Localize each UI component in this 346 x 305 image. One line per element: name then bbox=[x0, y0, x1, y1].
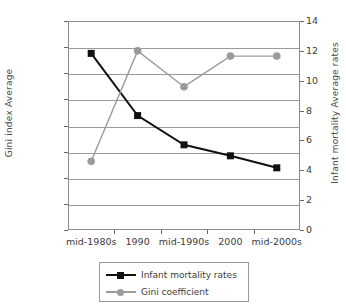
series-layer bbox=[0, 0, 346, 305]
legend-item-infant-mortality-rates: Infant mortality rates bbox=[106, 267, 237, 283]
data-point-square bbox=[134, 112, 141, 119]
data-point-circle bbox=[227, 52, 235, 60]
data-point-square bbox=[181, 141, 188, 148]
legend-item-gini-coefficient: Gini coefficient bbox=[106, 284, 208, 300]
legend-key-circle-icon bbox=[106, 286, 136, 298]
legend-label: Gini coefficient bbox=[141, 287, 208, 297]
chart-container: Gini index Average Infant mortality Aver… bbox=[0, 0, 346, 305]
data-point-circle bbox=[134, 47, 142, 55]
data-point-square bbox=[273, 164, 280, 171]
chart-legend: Infant mortality rates Gini coefficient bbox=[99, 262, 249, 302]
data-point-square bbox=[227, 152, 234, 159]
data-point-square bbox=[88, 50, 95, 57]
legend-key-square-icon bbox=[106, 269, 136, 281]
data-point-circle bbox=[273, 52, 281, 60]
data-point-circle bbox=[87, 158, 95, 166]
series-line bbox=[91, 53, 277, 167]
data-point-circle bbox=[180, 83, 188, 91]
legend-label: Infant mortality rates bbox=[141, 270, 237, 280]
